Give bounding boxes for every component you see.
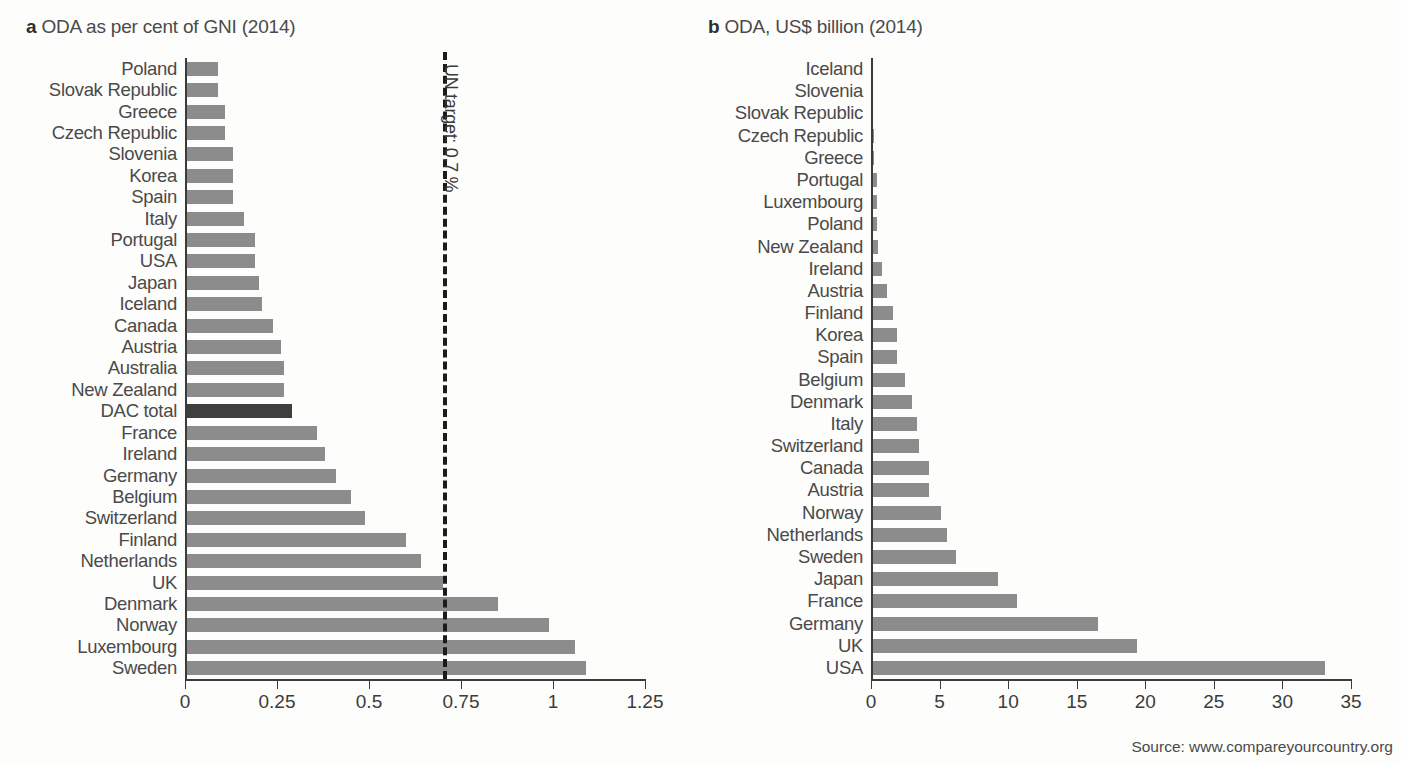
bar — [871, 350, 897, 364]
category-label: Italy — [831, 415, 863, 434]
x-axis-tick — [871, 681, 872, 689]
category-label: Finland — [118, 531, 177, 550]
chart-row: USA — [690, 657, 1401, 679]
chart-row: Slovenia — [690, 80, 1401, 102]
bar — [871, 506, 941, 520]
x-axis-tick-label: 1 — [548, 691, 559, 713]
source-note: Source: www.compareyourcountry.org — [1131, 738, 1393, 756]
bar — [871, 373, 905, 387]
bar — [185, 640, 575, 654]
bar — [871, 639, 1137, 653]
category-label: Germany — [103, 466, 177, 485]
bar — [185, 576, 443, 590]
x-axis-tick — [1351, 681, 1352, 689]
category-label: Australia — [108, 359, 177, 378]
x-axis-tick — [1077, 681, 1078, 689]
bar — [185, 597, 498, 611]
category-label: Belgium — [798, 370, 863, 389]
chart-row: Korea — [0, 165, 700, 186]
x-axis-tick-label: 0 — [866, 691, 877, 713]
x-axis-line — [871, 679, 1352, 681]
bar — [185, 276, 259, 290]
chart-row: Italy — [690, 413, 1401, 435]
chart-row: Finland — [690, 302, 1401, 324]
bar — [871, 617, 1098, 631]
category-label: Switzerland — [771, 437, 863, 456]
category-label: Austria — [808, 282, 863, 301]
bar — [871, 550, 956, 564]
chart-row: Norway — [690, 502, 1401, 524]
chart-row: Austria — [0, 336, 700, 357]
bar — [871, 439, 919, 453]
category-label: Belgium — [112, 488, 177, 507]
x-axis-tick — [277, 681, 278, 689]
chart-row: Italy — [0, 208, 700, 229]
category-label: Japan — [814, 570, 863, 589]
chart-row: Germany — [0, 465, 700, 486]
bar — [871, 461, 929, 475]
category-label: Germany — [789, 614, 863, 633]
chart-row: France — [0, 422, 700, 443]
category-label: Poland — [807, 215, 863, 234]
category-label: France — [121, 423, 177, 442]
x-axis-tick — [1214, 681, 1215, 689]
chart-row: Poland — [690, 213, 1401, 235]
category-label: Korea — [129, 167, 177, 186]
chart-row: UK — [0, 572, 700, 593]
bar — [185, 618, 549, 632]
panel-b-plot: IcelandSloveniaSlovak RepublicCzech Repu… — [690, 0, 1401, 764]
category-label: Iceland — [805, 60, 863, 79]
x-axis-tick-label: 25 — [1203, 691, 1224, 713]
chart-row: New Zealand — [0, 379, 700, 400]
bar — [185, 105, 225, 119]
y-axis-line — [185, 58, 187, 679]
bar — [185, 297, 262, 311]
chart-row: Austria — [690, 479, 1401, 501]
bar — [185, 190, 233, 204]
x-axis-line — [185, 679, 646, 681]
category-label: Japan — [128, 274, 177, 293]
x-axis-tick-label: 0.25 — [259, 691, 296, 713]
category-label: Sweden — [798, 548, 863, 567]
category-label: Iceland — [119, 295, 177, 314]
bar — [185, 490, 351, 504]
chart-row: France — [690, 590, 1401, 612]
chart-row: Iceland — [0, 294, 700, 315]
chart-row: Netherlands — [0, 551, 700, 572]
x-axis-tick — [461, 681, 462, 689]
bar — [871, 395, 912, 409]
chart-row: Ireland — [0, 443, 700, 464]
x-axis-tick-label: 0 — [180, 691, 191, 713]
category-label: Luxembourg — [763, 193, 863, 212]
category-label: New Zealand — [71, 381, 177, 400]
bar — [185, 426, 317, 440]
category-label: Ireland — [123, 445, 177, 464]
category-label: Norway — [802, 503, 863, 522]
x-axis-tick-label: 10 — [998, 691, 1019, 713]
bar — [871, 528, 947, 542]
category-label: Denmark — [790, 393, 863, 412]
category-label: Slovenia — [794, 82, 863, 101]
x-axis-tick-label: 5 — [934, 691, 945, 713]
category-label: Netherlands — [767, 526, 863, 545]
bar — [871, 661, 1325, 675]
category-label: Portugal — [796, 171, 863, 190]
category-label: Canada — [800, 459, 863, 478]
x-axis-tick — [1145, 681, 1146, 689]
bar — [185, 126, 225, 140]
chart-row: Austria — [690, 280, 1401, 302]
chart-row: Spain — [690, 346, 1401, 368]
category-label: USA — [826, 659, 863, 678]
chart-row: Ireland — [690, 258, 1401, 280]
bar — [185, 661, 586, 675]
category-label: UK — [152, 573, 177, 592]
bar — [871, 417, 917, 431]
chart-row: New Zealand — [690, 235, 1401, 257]
chart-row: Belgium — [690, 369, 1401, 391]
category-label: Finland — [804, 304, 863, 323]
x-axis-tick — [940, 681, 941, 689]
x-axis-tick — [553, 681, 554, 689]
bar — [185, 511, 365, 525]
panel-a-plot: PolandSlovak RepublicGreeceCzech Republi… — [0, 0, 700, 764]
x-axis-tick — [1282, 681, 1283, 689]
